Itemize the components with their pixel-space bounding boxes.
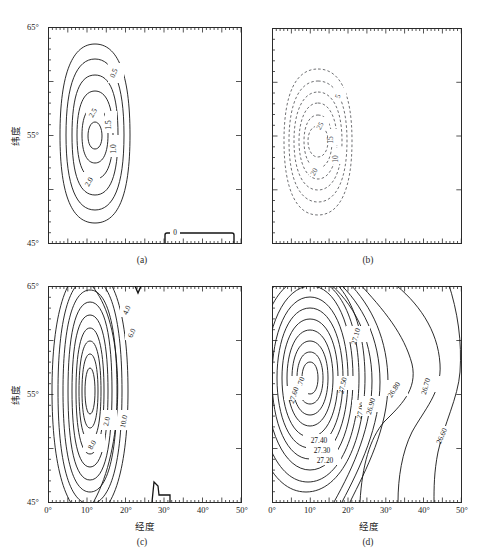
panel-caption-a: (a) <box>122 255 162 265</box>
y-axis-title: 纬度 <box>8 385 22 405</box>
contour-label: 1.0 <box>109 144 118 154</box>
figure-contour-panels: 0.5 1.0 1.5 2.0 2.5 0 <box>0 0 485 558</box>
y-tick-label: 45° <box>13 238 39 248</box>
panel-d: 27.70 27.60 27.50 27.10 27.00 26.90 26.8… <box>272 286 462 503</box>
x-tick-label: 50° <box>449 505 475 515</box>
y-axis-title: 纬度 <box>8 126 22 146</box>
panel-a-contour-labels: 0.5 1.0 1.5 2.0 2.5 0 <box>82 63 180 237</box>
panel-caption-d: (d) <box>348 537 388 547</box>
contour-label: 10 <box>331 155 340 163</box>
panel-a: 0.5 1.0 1.5 2.0 2.5 0 <box>48 27 242 244</box>
x-tick-label: 40° <box>190 505 216 515</box>
x-tick-label: 40° <box>411 505 437 515</box>
x-tick-label: 10° <box>297 505 323 515</box>
contour-label: 27.40 <box>311 436 328 445</box>
x-axis-title: 经度 <box>339 519 399 533</box>
y-tick-label: 65° <box>13 281 39 291</box>
panel-d-contour-labels: 27.70 27.60 27.50 27.10 27.00 26.90 26.8… <box>284 326 456 465</box>
x-tick-label: 30° <box>373 505 399 515</box>
panel-c: 2.0 10.0 4.0 6.0 8.0 <box>48 286 242 503</box>
panel-b: 5 10 15 20 25 <box>272 28 462 244</box>
panel-c-contour-labels: 2.0 10.0 4.0 6.0 8.0 <box>83 299 143 452</box>
x-axis-title: 经度 <box>115 519 175 533</box>
x-tick-label: 30° <box>151 505 177 515</box>
contour-label: 27.30 <box>314 446 331 455</box>
panel-caption-b: (b) <box>348 255 388 265</box>
y-tick-label: 65° <box>13 22 39 32</box>
x-tick-label: 20° <box>335 505 361 515</box>
panel-a-plot: 0.5 1.0 1.5 2.0 2.5 0 <box>48 27 242 244</box>
panel-b-plot: 5 10 15 20 25 <box>272 28 462 244</box>
contour-label: 0 <box>173 228 177 237</box>
contour-label: 1.5 <box>104 120 113 130</box>
x-tick-label: 0° <box>259 505 285 515</box>
contour-label: 27.20 <box>317 456 334 465</box>
panel-c-plot: 2.0 10.0 4.0 6.0 8.0 <box>48 286 242 503</box>
x-tick-label: 20° <box>113 505 139 515</box>
panel-c-contours <box>48 286 170 503</box>
x-tick-label: 50° <box>229 505 255 515</box>
panel-b-contour-labels: 5 10 15 20 25 <box>308 88 346 177</box>
panel-caption-c: (c) <box>122 537 162 547</box>
panel-d-plot: 27.70 27.60 27.50 27.10 27.00 26.90 26.8… <box>272 286 462 503</box>
contour-label: 15 <box>326 136 335 144</box>
panel-a-contours <box>60 44 234 243</box>
x-tick-label: 0° <box>35 505 61 515</box>
x-tick-label: 10° <box>74 505 100 515</box>
